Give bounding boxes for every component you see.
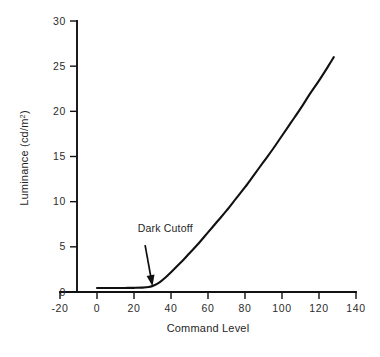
y-axis-title-group: Luminance (cd/m2) <box>18 110 31 206</box>
x-tick-label: 20 <box>128 302 141 314</box>
y-tick-label: 15 <box>53 150 66 162</box>
x-tick-label: 100 <box>272 302 291 314</box>
y-tick-label: 10 <box>53 195 66 207</box>
y-tick-label: 30 <box>53 15 66 27</box>
x-tick-label: 0 <box>94 302 100 314</box>
y-axis-title-base: Luminance (cd/m <box>18 118 30 205</box>
x-tick-label: 40 <box>165 302 178 314</box>
dark-cutoff-label: Dark Cutoff <box>138 222 193 234</box>
figure-container: 051015202530 -20020406080100120140 Dark … <box>0 0 380 357</box>
x-tick-label: 120 <box>309 302 328 314</box>
x-tick-label: 140 <box>346 302 365 314</box>
x-tick-label: 60 <box>202 302 215 314</box>
x-axis-title: Command Level <box>167 322 250 334</box>
y-axis-title-close: ) <box>18 110 30 114</box>
x-tick-label: 80 <box>239 302 252 314</box>
y-tick-label: 20 <box>53 105 66 117</box>
x-tick-label: -20 <box>52 302 69 314</box>
luminance-vs-command-level-chart: 051015202530 -20020406080100120140 Dark … <box>0 0 380 357</box>
y-tick-label: 25 <box>53 60 66 72</box>
y-axis-title: Luminance (cd/m2) <box>18 110 31 206</box>
y-tick-label: 5 <box>60 240 66 252</box>
